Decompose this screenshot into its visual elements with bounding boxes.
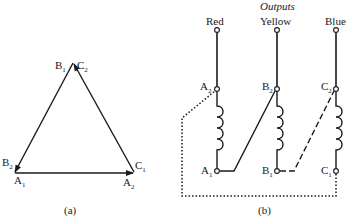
terminal-c1 <box>334 169 339 174</box>
output-red-label: Red <box>206 15 224 27</box>
terminal-a2 <box>215 87 220 92</box>
output-blue-label: Blue <box>325 15 346 27</box>
coil-b <box>277 92 283 168</box>
output-yellow-label: Yellow <box>260 15 291 27</box>
label-c1: C1 <box>135 159 146 174</box>
label-terminal-a1: A1 <box>201 164 213 179</box>
connection-b1-c2 <box>280 91 334 171</box>
phasor-b-arrow <box>15 63 73 172</box>
caption-a: (a) <box>64 204 77 217</box>
outputs-title: Outputs <box>260 0 295 12</box>
label-terminal-b1: B1 <box>262 164 273 179</box>
terminal-b2 <box>275 87 280 92</box>
connection-a1-b2 <box>220 91 275 171</box>
terminal-red <box>215 28 220 33</box>
label-b2: B2 <box>2 156 13 171</box>
delta-connection-diagram: B1 C2 B2 A1 C1 A2 (a) Outputs Red Yellow… <box>0 0 351 222</box>
phasor-triangle <box>15 63 134 173</box>
caption-b: (b) <box>258 204 271 217</box>
label-terminal-c1: C1 <box>321 164 332 179</box>
connection-c1-a2 <box>182 91 336 196</box>
terminal-blue <box>334 28 339 33</box>
label-terminal-a2: A2 <box>200 80 212 95</box>
label-terminal-c2: C2 <box>321 80 332 95</box>
coil-a <box>217 92 223 168</box>
label-b1: B1 <box>55 59 66 74</box>
label-terminal-b2: B2 <box>262 80 273 95</box>
terminal-a1 <box>215 169 220 174</box>
label-a2: A2 <box>123 176 135 191</box>
terminal-yellow <box>275 28 280 33</box>
coil-c <box>336 92 342 168</box>
terminal-b1 <box>275 169 280 174</box>
terminal-c2 <box>334 87 339 92</box>
phasor-c-arrow <box>74 64 134 172</box>
label-a1: A1 <box>14 174 26 189</box>
